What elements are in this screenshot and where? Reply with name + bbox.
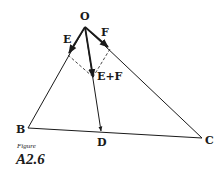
- caption-number: A2.6: [15, 151, 45, 167]
- force-diagram: O E F E+F B D C Figure A2.6: [0, 0, 223, 173]
- label-C: C: [205, 134, 214, 147]
- label-D: D: [97, 136, 107, 149]
- label-F: F: [101, 26, 109, 39]
- side-BC: [28, 128, 202, 138]
- label-O: O: [80, 10, 90, 23]
- label-B: B: [16, 123, 25, 136]
- label-E: E: [63, 33, 71, 46]
- vector-E-arrow: [69, 27, 85, 53]
- caption-prefix: Figure: [16, 142, 36, 150]
- label-sum: E+F: [97, 70, 123, 83]
- vector-sum-arrow: [85, 27, 93, 77]
